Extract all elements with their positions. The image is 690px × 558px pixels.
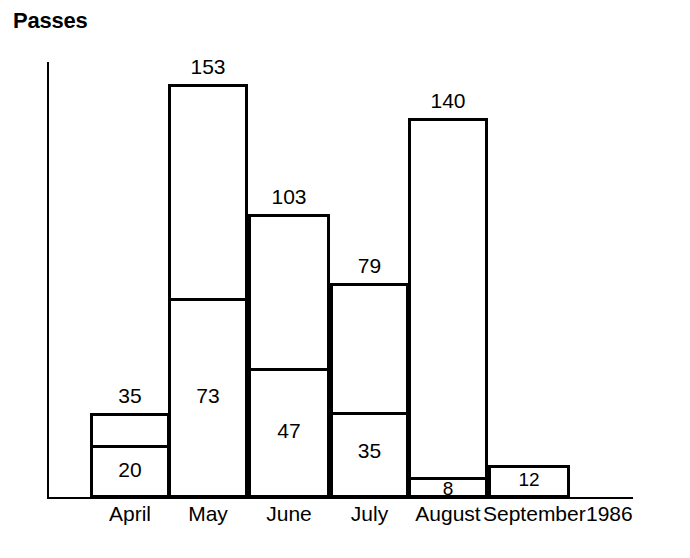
category-label-may: May xyxy=(168,503,248,524)
category-label-july: July xyxy=(330,503,409,524)
plot-area: 35 20 April 153 73 May 103 47 June 79 35… xyxy=(0,0,690,558)
bar-may-total-label: 153 xyxy=(168,56,248,77)
bar-june[interactable] xyxy=(248,214,330,498)
bar-april-lower-label: 20 xyxy=(90,459,170,480)
bar-may-lower-label: 73 xyxy=(168,385,248,406)
bar-august-total-label: 140 xyxy=(408,90,488,111)
category-label-september: September xyxy=(483,503,575,524)
bar-june-divider xyxy=(248,368,330,371)
bar-august[interactable] xyxy=(408,118,488,498)
bar-july-lower-label: 35 xyxy=(330,440,409,461)
bar-april-divider xyxy=(90,445,170,448)
axis-year-label: 1986 xyxy=(586,503,633,524)
bar-april[interactable] xyxy=(90,413,170,498)
bar-september-total-label: 12 xyxy=(488,470,570,489)
bar-may-divider xyxy=(168,298,248,301)
bar-july-divider xyxy=(330,412,409,415)
bar-august-lower-label: 8 xyxy=(408,479,488,498)
category-label-june: June xyxy=(248,503,330,524)
y-axis-line xyxy=(47,62,49,499)
bar-june-total-label: 103 xyxy=(248,186,330,207)
bar-may[interactable] xyxy=(168,84,248,498)
category-label-august: August xyxy=(408,503,488,524)
bar-july[interactable] xyxy=(330,283,409,498)
category-label-april: April xyxy=(90,503,170,524)
bar-june-lower-label: 47 xyxy=(248,420,330,441)
chart-page: Passes 35 20 April 153 73 May 103 47 Jun… xyxy=(0,0,690,558)
bar-july-total-label: 79 xyxy=(330,255,409,276)
bar-april-total-label: 35 xyxy=(90,385,170,406)
